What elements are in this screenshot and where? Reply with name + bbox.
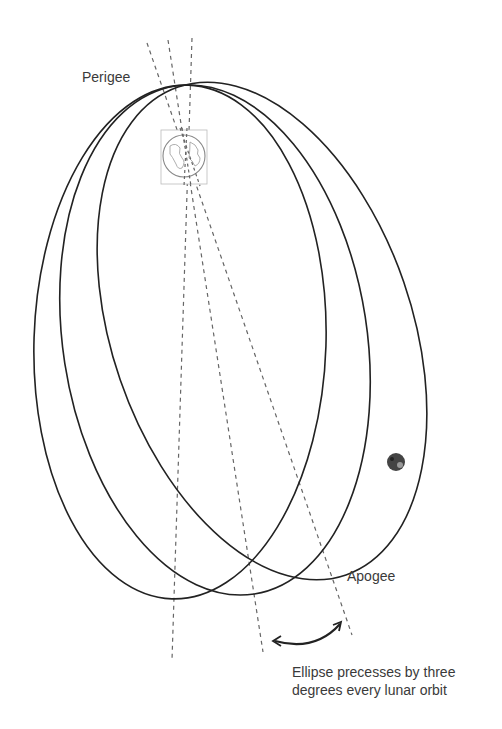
orbit-2 [25,63,404,617]
earth-icon [161,130,207,184]
apogee-label: Apogee [347,568,395,584]
orbits [25,38,487,624]
caption-line-2: degrees every lunar orbit [292,681,447,699]
orbit-3 [36,38,488,624]
moon-icon [387,453,405,471]
precession-arrow-icon [273,622,341,646]
precession-diagram [0,0,502,729]
perigee-label: Perigee [82,69,130,85]
caption-line-1: Ellipse precesses by three [292,663,455,681]
